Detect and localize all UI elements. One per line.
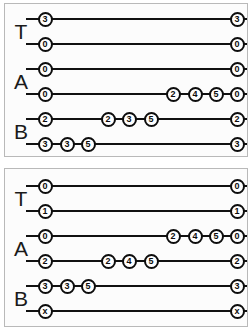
track-row: 3353 (5, 136, 247, 152)
track-line (26, 43, 247, 45)
track-row: 02450 (5, 228, 247, 244)
track-line (26, 185, 247, 187)
track-node[interactable]: 0 (38, 229, 53, 244)
track-row: 33 (5, 11, 247, 27)
track-node[interactable]: 5 (81, 137, 96, 152)
track-line (26, 118, 247, 120)
track-node[interactable]: 0 (230, 87, 245, 102)
track-node[interactable]: 0 (38, 37, 53, 52)
track-node[interactable]: 3 (38, 12, 53, 27)
track-line (26, 18, 247, 20)
track-node[interactable]: 0 (38, 179, 53, 194)
track-node[interactable]: 3 (38, 279, 53, 294)
track-row: 00 (5, 178, 247, 194)
track-row: 3353 (5, 278, 247, 294)
track-line (26, 310, 247, 312)
track-node[interactable]: 5 (144, 112, 159, 127)
track-node[interactable]: 0 (230, 62, 245, 77)
panel-top-inner: TAB33000002450223523353 (5, 4, 247, 156)
track-node[interactable]: 3 (230, 12, 245, 27)
track-node[interactable]: 1 (38, 204, 53, 219)
track-row: 00 (5, 36, 247, 52)
panel-bottom-inner: TAB001102450224523353xx (5, 169, 247, 326)
panel-top: TAB33000002450223523353 (4, 3, 248, 157)
track-row: 00 (5, 61, 247, 77)
track-node[interactable]: 3 (230, 137, 245, 152)
track-node[interactable]: 2 (38, 112, 53, 127)
track-row: 22352 (5, 111, 247, 127)
track-node[interactable]: 2 (101, 254, 116, 269)
track-row: 02450 (5, 86, 247, 102)
track-node[interactable]: 2 (38, 254, 53, 269)
track-node[interactable]: 0 (230, 229, 245, 244)
track-node[interactable]: 3 (122, 112, 137, 127)
track-line (26, 210, 247, 212)
track-row: 11 (5, 203, 247, 219)
track-node[interactable]: 2 (166, 87, 181, 102)
track-line (26, 260, 247, 262)
track-node[interactable]: 0 (38, 87, 53, 102)
track-node[interactable]: 3 (60, 137, 75, 152)
track-node[interactable]: 2 (230, 112, 245, 127)
track-row: xx (5, 303, 247, 319)
panel-bottom: TAB001102450224523353xx (4, 168, 248, 327)
track-row: 22452 (5, 253, 247, 269)
track-node[interactable]: 5 (209, 229, 224, 244)
track-node[interactable]: 0 (230, 37, 245, 52)
track-node[interactable]: 4 (188, 229, 203, 244)
track-node[interactable]: 3 (38, 137, 53, 152)
track-node[interactable]: 0 (38, 62, 53, 77)
track-node[interactable]: x (38, 304, 53, 319)
track-node[interactable]: 4 (122, 254, 137, 269)
track-node[interactable]: 1 (230, 204, 245, 219)
track-node[interactable]: 0 (230, 179, 245, 194)
diagram-canvas: TAB33000002450223523353 TAB0011024502245… (0, 0, 252, 330)
track-node[interactable]: 5 (144, 254, 159, 269)
track-node[interactable]: 5 (81, 279, 96, 294)
track-node[interactable]: 2 (101, 112, 116, 127)
track-node[interactable]: 2 (166, 229, 181, 244)
track-node[interactable]: 3 (60, 279, 75, 294)
track-node[interactable]: x (230, 304, 245, 319)
track-line (26, 68, 247, 70)
track-node[interactable]: 4 (188, 87, 203, 102)
track-node[interactable]: 2 (230, 254, 245, 269)
track-node[interactable]: 5 (209, 87, 224, 102)
track-node[interactable]: 3 (230, 279, 245, 294)
